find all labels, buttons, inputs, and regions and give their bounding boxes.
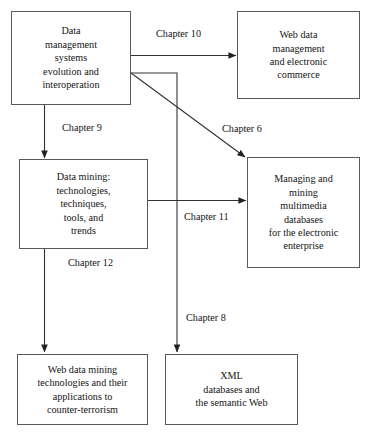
edge-chapter-6	[131, 73, 245, 157]
edge-label-chapter-11: Chapter 11	[184, 211, 229, 223]
node-label: XML databases and the semantic Web	[192, 369, 272, 409]
node-label: Data mining: technologies, techniques, t…	[52, 170, 114, 237]
node-counter-terrorism[interactable]: Web data mining technologies and their a…	[17, 354, 148, 425]
node-label: Web data management and electronic comme…	[266, 28, 331, 82]
node-data-mining[interactable]: Data mining: technologies, techniques, t…	[19, 159, 148, 249]
flowchart-diagram: Data management systems evolution and in…	[0, 0, 371, 442]
node-data-management-systems[interactable]: Data management systems evolution and in…	[11, 11, 131, 105]
edge-label-chapter-6: Chapter 6	[222, 123, 262, 135]
edge-label-chapter-10: Chapter 10	[156, 28, 201, 40]
edge-label-chapter-9: Chapter 9	[62, 122, 102, 134]
node-web-data-management[interactable]: Web data management and electronic comme…	[237, 11, 360, 99]
node-multimedia-databases[interactable]: Managing and mining multimedia databases…	[247, 157, 360, 268]
node-label: Web data mining technologies and their a…	[34, 363, 132, 417]
edge-label-chapter-8: Chapter 8	[186, 312, 226, 324]
edge-label-chapter-12: Chapter 12	[68, 257, 113, 269]
node-xml-semantic-web[interactable]: XML databases and the semantic Web	[165, 354, 298, 425]
node-label: Managing and mining multimedia databases…	[265, 172, 343, 252]
node-label: Data management systems evolution and in…	[38, 24, 103, 91]
